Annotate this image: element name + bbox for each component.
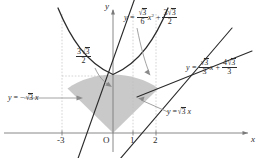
left-line-label-var: x: [35, 93, 39, 102]
tangent-equation-label: y = √3 3 x + 4√3 3: [186, 58, 237, 77]
y-axis-label: y: [105, 2, 109, 11]
parabola-const-num: 3√3: [162, 8, 177, 17]
parabola-eq-lhs: y =: [124, 13, 135, 22]
parabola-coef-den: 6: [137, 17, 148, 26]
tangent-slope-den: 3: [199, 67, 210, 76]
origin-label: O: [103, 136, 110, 145]
x-axis-arrow: [243, 131, 249, 135]
tangent-const-fraction: 4√3 3: [222, 58, 237, 77]
origin-label-text: O: [103, 135, 110, 145]
y-value-label: 3√3 2: [76, 47, 91, 66]
right-line-label-y: y: [167, 107, 171, 116]
tangent-slope-num: √3: [199, 58, 210, 67]
left-line-label-y: y: [8, 93, 12, 102]
parabola-power: 2: [151, 13, 153, 18]
tangent-const-den: 3: [222, 67, 237, 76]
x-tick-label-2: 2: [153, 136, 158, 145]
x-axis-label-text: x: [251, 134, 255, 144]
tangent-eq-lhs: y =: [186, 63, 197, 72]
parabola-const-fraction: 3√3 2: [162, 8, 177, 27]
parabola-coef-fraction: √3 6: [137, 8, 148, 27]
parabola-plus: +: [156, 13, 161, 22]
tangent-const-num: 4√3: [222, 58, 237, 67]
y-value-numerator: 3√3: [76, 47, 91, 56]
arrowhead-parabola: [144, 70, 150, 76]
tangent-var: x: [210, 63, 214, 72]
y-axis-label-text: y: [105, 1, 109, 11]
x-axis-label: x: [251, 135, 255, 144]
tangent-plus: +: [215, 63, 220, 72]
right-line-label-radicand: 3: [181, 107, 186, 116]
parabola-coef-num: √3: [137, 8, 148, 17]
tangent-slope-fraction: √3 3: [199, 58, 210, 77]
right-line-label-var: x: [188, 107, 192, 116]
right-line-label: y =√3 x: [167, 107, 191, 116]
x-tick-label-minus3: -3: [57, 136, 65, 145]
right-line-label-eq: =: [173, 107, 178, 116]
parabola-const-den: 2: [162, 17, 177, 26]
left-line-label: y = −√3 x: [8, 93, 39, 102]
x-tick-label-2-text: 2: [153, 135, 158, 145]
y-axis-arrow: [111, 9, 115, 15]
leader-parabola: [137, 28, 149, 72]
y-value-denominator: 2: [76, 56, 91, 65]
left-line-label-eq: = −: [14, 93, 25, 102]
x-tick-label-minus3-text: -3: [57, 135, 65, 145]
x-tick-label-1-text: 1: [130, 135, 135, 145]
y-value-fraction: 3√3 2: [76, 47, 91, 66]
leader-right-line: [141, 100, 168, 112]
parabola-equation-label: y = √3 6 x2 + 3√3 2: [124, 8, 177, 27]
x-tick-label-1: 1: [130, 136, 135, 145]
